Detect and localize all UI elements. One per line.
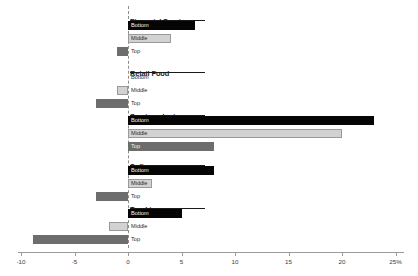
bar-row: Top: [0, 235, 418, 244]
bar-series-label: Bottom: [129, 73, 149, 82]
bar-row: Top: [0, 192, 418, 201]
bar-series-label: Bottom: [129, 209, 149, 218]
bar-row: Bottom: [0, 21, 418, 30]
x-axis-tick-label: -10: [17, 258, 26, 265]
x-axis-tick-label: 5: [180, 258, 183, 265]
bar-row: Bottom: [0, 209, 418, 218]
bar-middle: [128, 129, 342, 138]
bar-row: Middle: [0, 86, 418, 95]
x-axis-tick-label: 10: [232, 258, 239, 265]
bar-top: [96, 99, 128, 108]
bar-series-label: Middle: [129, 129, 147, 138]
bar-middle: [117, 86, 128, 95]
bar-row: Middle: [0, 129, 418, 138]
bar-row: Middle: [0, 34, 418, 43]
bar-series-label: Top: [129, 47, 140, 56]
x-axis-tick-label: 25%: [389, 258, 401, 265]
bar-row: Bottom: [0, 116, 418, 125]
bar-series-label: Middle: [129, 34, 147, 43]
bar-series-label: Middle: [129, 222, 147, 231]
bar-series-label: Top: [129, 235, 140, 244]
bar-row: Top: [0, 142, 418, 151]
group-title-container: Financial Services: [128, 10, 205, 21]
bar-series-label: Middle: [129, 86, 147, 95]
x-axis-tick-label: 15: [285, 258, 292, 265]
x-axis-tick: [289, 252, 290, 256]
group-title-container: Semiconductors: [128, 105, 205, 116]
bar-row: Middle: [0, 179, 418, 188]
bar-series-label: Bottom: [129, 116, 149, 125]
bar-row: Bottom: [0, 73, 418, 82]
bar-middle: [109, 222, 128, 231]
bar-series-label: Bottom: [129, 166, 149, 175]
bar-row: Middle: [0, 222, 418, 231]
bar-series-label: Top: [129, 142, 140, 151]
bar-top: [128, 142, 214, 151]
grouped-bar-chart: Financial ServicesBottomMiddleTopRetail …: [0, 0, 418, 276]
x-axis-tick-label: 20: [339, 258, 346, 265]
x-axis-tick: [235, 252, 236, 256]
bar-series-label: Middle: [129, 179, 147, 188]
x-axis-tick: [128, 252, 129, 256]
bar-top: [96, 192, 128, 201]
bar-row: Bottom: [0, 166, 418, 175]
bar-top: [33, 235, 128, 244]
bar-row: Top: [0, 99, 418, 108]
x-axis-tick: [75, 252, 76, 256]
x-axis: -10-50510152025%: [0, 252, 418, 276]
x-axis-tick: [21, 252, 22, 256]
x-axis-tick-label: 0: [126, 258, 129, 265]
x-axis-line: [18, 252, 404, 253]
group-title-container: Retail Food: [128, 62, 205, 73]
bar-series-label: Bottom: [129, 21, 149, 30]
group-title-container: Software: [128, 155, 205, 166]
x-axis-tick: [396, 252, 397, 256]
x-axis-tick: [182, 252, 183, 256]
bar-row: Top: [0, 47, 418, 56]
plot-area: Financial ServicesBottomMiddleTopRetail …: [0, 0, 418, 248]
group-title-container: Trucking: [128, 198, 205, 209]
bar-bottom: [128, 116, 374, 125]
x-axis-tick: [342, 252, 343, 256]
bar-top: [117, 47, 128, 56]
x-axis-tick-label: -5: [72, 258, 78, 265]
